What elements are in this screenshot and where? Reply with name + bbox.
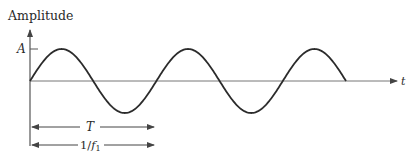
frequency-label: 1/f1 — [80, 138, 101, 153]
sine-wave-diagram: Amplitude A t T 1/f1 — [0, 0, 414, 162]
y-axis-label: Amplitude — [7, 8, 73, 23]
period-label: T — [86, 120, 95, 134]
x-axis-label: t — [401, 75, 406, 88]
amplitude-label: A — [16, 42, 26, 56]
